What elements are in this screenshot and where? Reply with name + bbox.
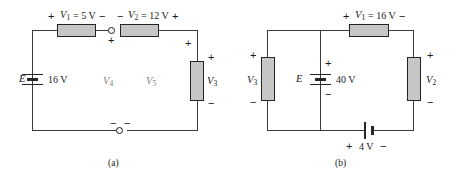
circuit-a-corner-plus-sign: +	[185, 38, 191, 49]
circuit-a-caption: (a)	[108, 158, 119, 168]
circuit-a-v2-plus-sign: +	[172, 11, 178, 22]
circuit-a-v1-value: = 5 V	[73, 11, 96, 21]
circuit-a-v1-label: V1	[60, 10, 70, 21]
circuit-b-v1-plus-sign: +	[343, 11, 349, 22]
circuit-b-source-symbol: E	[296, 74, 302, 85]
circuit-a-v1-plus-sign: +	[48, 11, 54, 22]
circuit-b-v2-label: V2	[426, 75, 436, 86]
circuit-b-v3-label: V3	[247, 75, 257, 86]
circuit-b-wire-bottom-right	[374, 130, 414, 131]
circuit-b-bottom-source-value: 4 V	[359, 142, 374, 152]
circuit-b-source-plus-sign: +	[325, 58, 331, 69]
circuit-a-resistor-v1	[57, 24, 96, 37]
circuit-a-v3-plus-sign: +	[208, 52, 214, 63]
circuit-a-node-bottom-terminal	[116, 127, 123, 134]
circuit-b-battery-symbol	[310, 72, 331, 88]
circuit-b-resistor-v3	[261, 57, 275, 101]
circuit-a-wire-bottom-left	[32, 130, 120, 131]
circuit-b-wire-top-right	[389, 30, 413, 31]
circuit-a-v2-minus-sign: −	[117, 11, 123, 22]
circuit-a-node-bottom-minus-right: −	[124, 118, 130, 129]
circuit-b-v1-label: V1	[355, 10, 365, 21]
circuit-b-v3-minus-sign: −	[250, 97, 256, 108]
circuit-b-wire-top-left	[267, 30, 349, 31]
circuit-a-resistor-v2	[120, 24, 159, 37]
circuit-b-bottom-source-minus-sign: −	[380, 141, 386, 152]
circuit-a-v2-value: = 12 V	[141, 11, 169, 21]
circuit-a-v3-label: V3	[207, 76, 217, 87]
circuit-a-node-top-plus-sign: +	[108, 35, 114, 46]
circuit-b-v2-plus-sign: +	[427, 50, 433, 61]
circuit-b-v1-minus-sign: −	[399, 11, 405, 22]
circuit-a-v5-label: V5	[146, 76, 156, 87]
circuit-b-resistor-v2	[407, 57, 421, 101]
circuit-a-v3-minus-sign: −	[208, 98, 214, 109]
circuit-b-v2-minus-sign: −	[427, 97, 433, 108]
circuit-a-v4-label: V4	[103, 76, 113, 87]
circuit-a-node-bottom-minus-left: −	[110, 118, 116, 129]
circuit-b-v3-plus-sign: +	[250, 50, 256, 61]
circuit-a-v1-minus-sign: −	[99, 11, 105, 22]
circuit-diagram-b: + V1 = 16 V − + V3 − + V2 − E + − 40	[232, 0, 464, 180]
circuit-a-v2-label: V2	[128, 10, 138, 21]
circuit-b-resistor-v1	[349, 24, 389, 37]
circuit-b-source-value: 40 V	[336, 75, 356, 85]
circuit-a-source-value: 16 V	[48, 75, 68, 85]
circuit-a-battery-symbol	[22, 72, 43, 88]
circuit-b-wire-bottom-left	[267, 130, 364, 131]
circuit-b-bottom-battery-symbol	[363, 122, 375, 139]
circuit-a-wire-top-left	[32, 30, 57, 31]
circuit-a-resistor-v3	[190, 61, 204, 101]
circuit-a-node-top-terminal	[108, 27, 115, 34]
circuit-b-v1-value: = 16 V	[368, 11, 396, 21]
circuit-b-caption: (b)	[335, 158, 346, 168]
figure-canvas: + V1 = 5 V − − V2 = 12 V + + − − E	[0, 0, 464, 180]
circuit-diagram-a: + V1 = 5 V − − V2 = 12 V + + − − E	[0, 0, 232, 180]
circuit-b-source-minus-sign: −	[325, 89, 331, 100]
circuit-a-wire-bottom-right	[127, 130, 198, 131]
circuit-b-bottom-source-plus-sign: +	[346, 141, 352, 152]
circuit-a-wire-top-right	[159, 30, 198, 31]
